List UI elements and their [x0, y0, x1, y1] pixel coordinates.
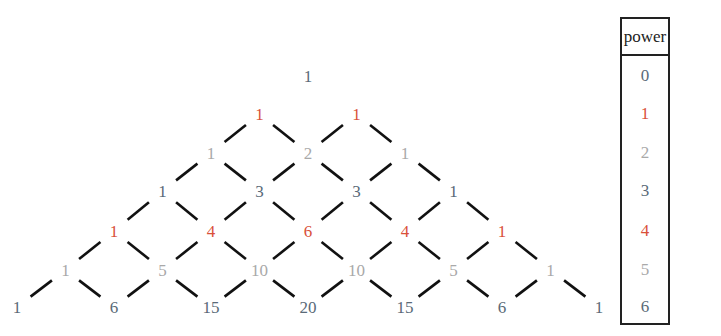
- connector-line: [419, 164, 440, 181]
- connector-line: [370, 242, 391, 259]
- connector-line: [322, 280, 343, 296]
- connector-line: [128, 202, 149, 220]
- triangle-entry: 1: [61, 262, 70, 279]
- power-table-row: 4: [622, 221, 668, 241]
- connector-line: [516, 280, 537, 296]
- triangle-entry: 1: [449, 183, 458, 200]
- connector-line: [79, 242, 100, 259]
- triangle-entry: 5: [158, 262, 167, 279]
- triangle-entry: 15: [203, 299, 220, 316]
- power-table: power 0123456: [620, 17, 670, 325]
- connector-line: [467, 202, 488, 220]
- triangle-entry: 4: [207, 223, 216, 240]
- connector-line: [225, 280, 246, 296]
- connector-line: [176, 164, 197, 181]
- triangle-entry: 20: [300, 299, 317, 316]
- triangle-entry: 6: [498, 299, 507, 316]
- connector-line: [322, 164, 343, 181]
- triangle-entry: 1: [158, 183, 167, 200]
- connector-line: [225, 164, 246, 181]
- triangle-entry: 1: [13, 299, 22, 316]
- connector-line: [322, 202, 343, 220]
- connector-line: [225, 242, 246, 259]
- connector-line: [128, 242, 149, 259]
- triangle-entry: 1: [207, 145, 216, 162]
- connector-line: [370, 164, 391, 181]
- triangle-entry: 1: [352, 106, 361, 123]
- connector-line: [176, 242, 197, 259]
- power-table-row: 1: [622, 104, 668, 124]
- connector-line: [322, 242, 343, 259]
- connector-line: [79, 280, 100, 296]
- connector-line: [273, 202, 294, 220]
- triangle-entry: 1: [255, 106, 264, 123]
- connector-line: [225, 125, 246, 142]
- power-table-row: 2: [622, 143, 668, 163]
- pascal-triangle-connectors: [0, 0, 721, 336]
- triangle-entry: 15: [397, 299, 414, 316]
- connector-line: [273, 125, 294, 142]
- connector-line: [370, 125, 391, 142]
- connector-line: [128, 280, 149, 296]
- connector-line: [564, 280, 585, 296]
- triangle-entry: 1: [546, 262, 555, 279]
- connector-line: [467, 242, 488, 259]
- triangle-entry: 6: [304, 223, 313, 240]
- power-table-row: 3: [622, 181, 668, 201]
- triangle-entry: 3: [352, 183, 361, 200]
- triangle-entry: 4: [401, 223, 410, 240]
- connector-line: [225, 202, 246, 220]
- connector-line: [273, 280, 294, 296]
- connector-line: [419, 242, 440, 259]
- triangle-entry: 1: [304, 68, 313, 85]
- power-table-row: 0: [622, 66, 668, 86]
- connector-line: [322, 125, 343, 142]
- triangle-entry: 10: [251, 262, 268, 279]
- power-table-header: power: [622, 19, 668, 56]
- triangle-entry: 1: [595, 299, 604, 316]
- connector-line: [370, 202, 391, 220]
- power-table-row: 5: [622, 260, 668, 280]
- connector-line: [419, 202, 440, 220]
- triangle-entry: 10: [348, 262, 365, 279]
- triangle-entry: 5: [449, 262, 458, 279]
- triangle-entry: 6: [110, 299, 119, 316]
- connector-line: [419, 280, 440, 296]
- connector-line: [273, 164, 294, 181]
- triangle-entry: 1: [498, 223, 507, 240]
- connector-line: [467, 280, 488, 296]
- triangle-entry: 2: [304, 145, 313, 162]
- connector-line: [176, 280, 197, 296]
- power-table-row: 6: [622, 297, 668, 317]
- connector-line: [370, 280, 391, 296]
- triangle-entry: 1: [401, 145, 410, 162]
- connector-line: [31, 280, 52, 296]
- connector-line: [273, 242, 294, 259]
- connector-line: [516, 242, 537, 259]
- triangle-entry: 3: [255, 183, 264, 200]
- triangle-entry: 1: [110, 223, 119, 240]
- connector-line: [176, 202, 197, 220]
